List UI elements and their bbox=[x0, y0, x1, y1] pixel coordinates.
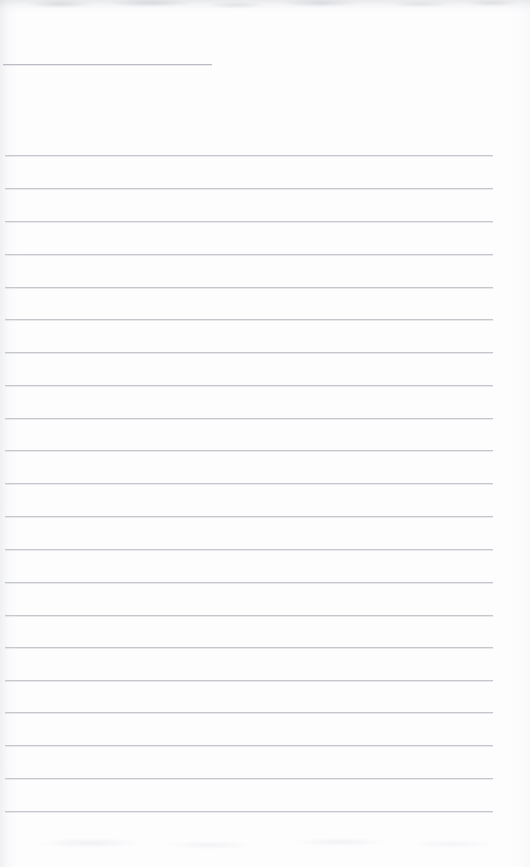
ruled-line bbox=[5, 516, 493, 517]
ruled-line bbox=[5, 549, 493, 550]
ruled-line bbox=[5, 680, 493, 681]
ruled-line bbox=[5, 254, 493, 255]
ruled-line bbox=[5, 778, 493, 779]
ruled-line bbox=[5, 418, 493, 419]
ruled-line bbox=[5, 352, 493, 353]
ruled-line bbox=[5, 483, 493, 484]
ruled-line bbox=[5, 647, 493, 648]
writing-area bbox=[0, 0, 530, 867]
scanned-page bbox=[0, 0, 530, 867]
ruled-line bbox=[5, 287, 493, 288]
ruled-line bbox=[5, 745, 493, 746]
ruled-line bbox=[5, 811, 493, 812]
ruled-line bbox=[5, 188, 493, 189]
ruled-line bbox=[5, 385, 493, 386]
ruled-line bbox=[5, 450, 493, 451]
ruled-line bbox=[5, 712, 493, 713]
ruled-line bbox=[5, 319, 493, 320]
ruled-line bbox=[5, 615, 493, 616]
ruled-line bbox=[5, 582, 493, 583]
ruled-line bbox=[5, 221, 493, 222]
ruled-line bbox=[5, 155, 493, 156]
header-rule bbox=[3, 64, 212, 65]
